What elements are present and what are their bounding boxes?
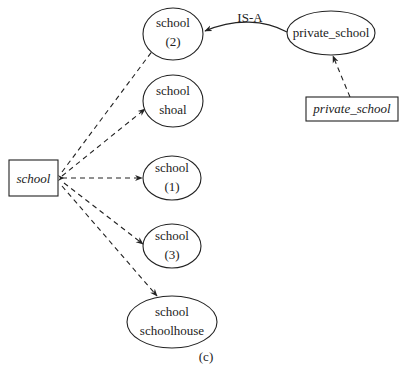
node-label-line2: (3) bbox=[164, 247, 179, 262]
node-school-1[interactable]: school (1) bbox=[143, 156, 201, 200]
edge-school-to-school-schoolhouse bbox=[62, 186, 157, 296]
node-label-line2: schoolhouse bbox=[140, 323, 205, 338]
edge-private-box-to-private-node bbox=[333, 56, 350, 97]
box-label: private_school bbox=[312, 101, 391, 116]
source-box-school[interactable]: school bbox=[9, 160, 58, 196]
node-label-line2: (1) bbox=[164, 179, 179, 194]
edges-dashed bbox=[62, 46, 350, 296]
edge-school-to-school-2 bbox=[62, 46, 156, 172]
node-school-shoal[interactable]: school shoal bbox=[143, 75, 203, 127]
arrowhead-into-school-box bbox=[58, 175, 64, 181]
node-school-3[interactable]: school (3) bbox=[143, 224, 201, 268]
edge-label-is-a: IS-A bbox=[237, 10, 263, 25]
node-label-line1: school bbox=[155, 160, 189, 175]
source-box-label: school bbox=[17, 171, 51, 186]
node-label-line1: school bbox=[156, 83, 190, 98]
node-private-school[interactable]: private_school bbox=[287, 11, 375, 55]
edge-school-to-school-shoal bbox=[62, 109, 145, 176]
node-school-2[interactable]: school (2) bbox=[143, 8, 203, 60]
node-label: private_school bbox=[293, 25, 370, 40]
diagram-canvas: IS-A school school (2) school shoal scho… bbox=[0, 0, 413, 378]
node-label-line1: school bbox=[156, 15, 190, 30]
node-school-schoolhouse[interactable]: school schoolhouse bbox=[127, 296, 217, 348]
node-label-line2: (2) bbox=[165, 34, 180, 49]
node-label-line1: school bbox=[155, 304, 189, 319]
figure-caption: (c) bbox=[199, 349, 213, 364]
box-private-school[interactable]: private_school bbox=[306, 97, 398, 121]
node-label-line1: school bbox=[155, 228, 189, 243]
node-label-line2: shoal bbox=[159, 102, 187, 117]
